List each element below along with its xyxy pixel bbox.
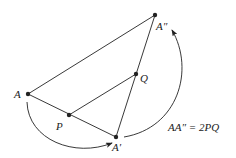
label-p: P xyxy=(55,120,63,132)
point-a1 xyxy=(114,135,118,139)
point-q xyxy=(134,72,138,76)
segment-a-a2 xyxy=(28,15,155,94)
segment-a-a1 xyxy=(28,94,116,137)
point-a xyxy=(26,92,30,96)
label-a: A xyxy=(13,88,21,100)
geometry-diagram: A A″ Q P A′ AA″ = 2PQ xyxy=(0,0,236,158)
label-a2: A″ xyxy=(155,20,168,32)
rotation-arc-a-to-a1 xyxy=(27,102,112,148)
label-a1: A′ xyxy=(111,141,122,153)
point-p xyxy=(67,113,71,117)
point-a2 xyxy=(153,13,157,17)
label-q: Q xyxy=(140,72,148,84)
equation-label: AA″ = 2PQ xyxy=(167,121,219,133)
segment-p-q xyxy=(69,74,136,115)
